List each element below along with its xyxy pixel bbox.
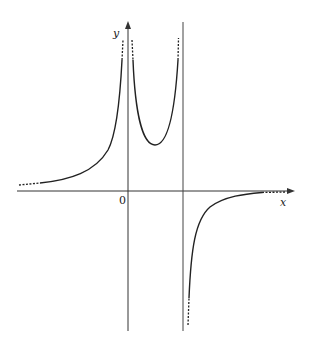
right-branch-curve (189, 193, 262, 299)
y-axis-label: y (112, 27, 120, 40)
right-branch-dashed-bottom (188, 298, 189, 325)
right-branch-dashed (262, 192, 285, 193)
middle-branch-dashed-right (178, 38, 179, 60)
left-branch-dashed (19, 183, 40, 185)
chart-canvas: y x 0 (0, 0, 309, 351)
origin-label: 0 (119, 194, 126, 207)
x-axis-label: x (280, 196, 287, 209)
middle-branch-dashed-left (132, 40, 133, 60)
x-axis-arrow-icon (287, 188, 295, 194)
y-axis-arrow-icon (125, 21, 131, 29)
left-branch-curve (40, 60, 122, 183)
middle-branch-curve (133, 60, 178, 145)
left-branch-dashed-top (122, 40, 123, 60)
function-graph: y x 0 (0, 0, 309, 351)
